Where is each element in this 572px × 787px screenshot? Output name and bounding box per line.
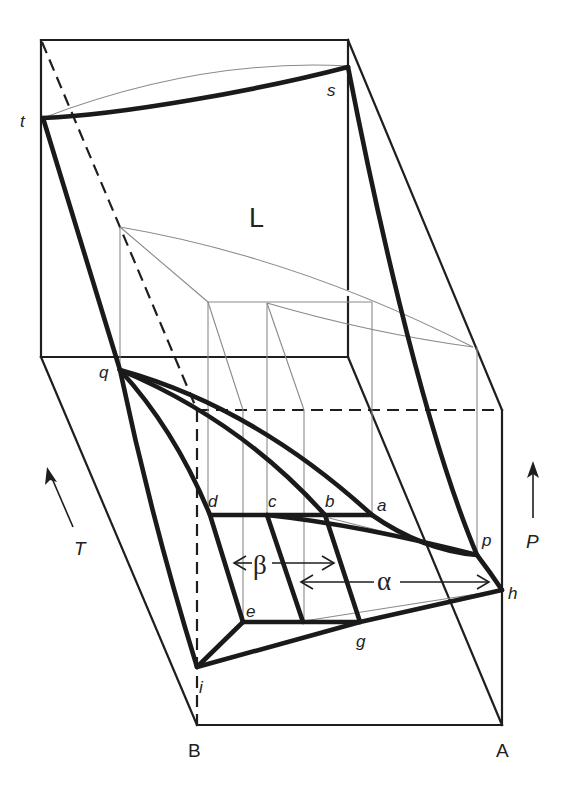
curve-q-i [120, 370, 197, 667]
curve-t-s [43, 67, 348, 118]
beta-phase-label: β [253, 550, 267, 580]
component-label-A: A [496, 740, 509, 761]
point-label-t: t [20, 112, 26, 131]
boundary-c-base [267, 515, 303, 622]
point-label-h: h [508, 584, 517, 603]
point-label-c: c [268, 492, 277, 511]
point-label-i: i [199, 678, 204, 697]
curve-t-q [43, 118, 120, 370]
point-label-d: d [208, 492, 218, 511]
liquid-region-label: L [249, 203, 264, 233]
projection-curve-lower [267, 303, 473, 347]
point-label-q: q [99, 363, 109, 382]
point-label-a: a [377, 496, 386, 515]
alpha-range-arrow: α [301, 566, 489, 596]
curve-p-h [477, 555, 502, 590]
point-label-s: s [327, 81, 336, 100]
pressure-axis-label: P [526, 531, 539, 552]
pressure-axis-indicator: P [526, 461, 539, 552]
point-label-g: g [356, 632, 366, 651]
temperature-axis-indicator: T [45, 467, 87, 559]
alpha-phase-label: α [377, 566, 391, 596]
point-label-e: e [246, 602, 255, 621]
top-right-receding-edge [348, 40, 502, 410]
projection-curve-upper [120, 227, 473, 347]
temperature-arrow-shaft [51, 476, 73, 527]
component-label-B: B [188, 740, 201, 761]
temperature-axis-label: T [74, 538, 87, 559]
curve-q-b [120, 370, 325, 515]
arrow-up-icon [45, 467, 57, 485]
phase-diagram-prism: β α T P L t s q d c b a p h e g i B A [0, 0, 572, 787]
curve-s-p [348, 67, 477, 555]
liquidus-top-thin-curve [43, 65, 348, 118]
point-label-b: b [325, 492, 334, 511]
boundary-b-g [325, 515, 360, 622]
curve-c-p [267, 515, 477, 555]
projection-diagonal-upper-left [120, 227, 208, 302]
bottom-left-receding-edge [41, 357, 197, 725]
point-label-p: p [481, 531, 491, 550]
phase-boundaries [43, 67, 502, 667]
